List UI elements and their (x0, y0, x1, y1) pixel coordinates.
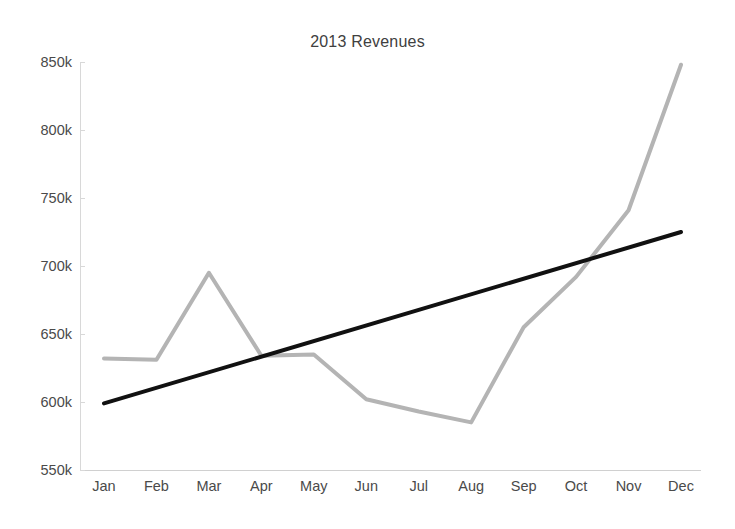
series-layer (0, 0, 735, 529)
trendline (104, 232, 681, 403)
y-axis-tick-mark (80, 62, 85, 63)
y-axis-tick-mark (80, 402, 85, 403)
y-axis-tick-mark (80, 130, 85, 131)
y-axis-tick-mark (80, 266, 85, 267)
y-axis-tick-mark (80, 470, 85, 471)
revenue-series-line (104, 65, 681, 423)
y-axis-tick-mark (80, 334, 85, 335)
revenue-line-chart: 2013 Revenues 850k800k750k700k650k600k55… (0, 0, 735, 529)
y-axis-tick-mark (80, 198, 85, 199)
